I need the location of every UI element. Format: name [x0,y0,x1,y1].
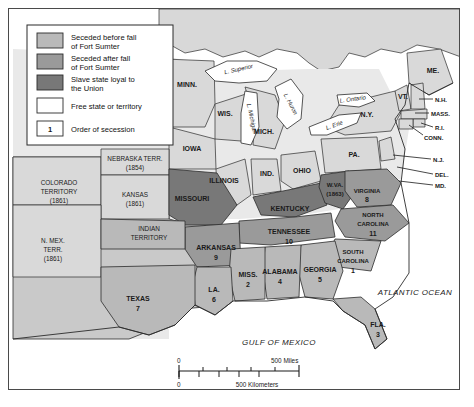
legend-label-0-l1: Seceded before fall [71,33,137,42]
label-confederate-10-l1: NORTH [362,212,383,218]
label-small-state-1: MASS. [431,111,450,117]
label-confederate-0-l2: CAROLINA [337,258,369,264]
label-state-7: PA. [348,151,359,158]
label-confederate-8: ARKANSAS [196,244,236,251]
order-number-5: 6 [212,296,216,303]
legend-swatch-2 [37,75,63,90]
label-state-2: IOWA [183,145,202,152]
label-state-10: VT. [398,93,408,100]
label-territory-4-l3: (1861) [44,255,62,263]
label-territory-3-l1: INDIAN [138,225,160,232]
scale-km-start: 0 [177,381,181,388]
label-confederate-10-l2: CAROLINA [357,221,389,227]
order-number-7: 8 [365,196,369,203]
legend-order-label: Order of secession [71,125,135,134]
scale-km-end: 500 Kilometers [236,381,279,388]
label-confederate-2: FLA. [370,321,386,328]
legend-swatch-0 [37,33,63,48]
legend-label-2-l2: the Union [71,84,104,93]
label-territory-3-l2: TERRITORY [131,234,168,241]
label-state-4: ILLINOIS [209,177,239,184]
legend-label-1-l1: Seceded after fall [71,54,130,63]
label-small-state-6: MD. [435,183,446,189]
legend-label-0-l2: of Fort Sumter [71,42,120,51]
label-small-state-4: N.J. [433,157,444,163]
label-state-9: ME. [427,67,440,74]
order-number-2: 3 [376,331,380,338]
label-territory-1-l1: NEBRASKA TERR. [107,155,163,162]
label-territory-0-l3: (1861) [50,197,68,205]
label-state-6: OHIO [293,167,311,174]
order-number-3: 4 [278,278,282,285]
label-territory-4-l2: TERR. [43,246,62,253]
legend-swatch-1 [37,54,63,69]
label-confederate-7: VIRGINIA [354,188,381,194]
label-confederate-0-l1: SOUTH [343,249,364,255]
label-confederate-4: GEORGIA [303,266,336,273]
order-number-0: 1 [351,267,355,274]
label-border-state-0: MISSOURI [175,195,210,202]
label-border-state-2: W.VA. [327,182,344,188]
order-number-6: 7 [136,305,140,312]
label-border-state-2-date: (1863) [326,191,343,197]
label-small-state-0: N.H. [435,97,447,103]
order-number-8: 9 [214,254,218,261]
label-territory-0-l1: COLORADO [41,179,78,186]
label-confederate-9: TENNESSEE [268,228,311,235]
scale-miles-end: 500 Miles [271,357,298,364]
order-number-10: 11 [369,230,377,237]
order-number-1: 2 [246,281,250,288]
label-small-state-2: R.I. [435,125,445,131]
legend-label-2-l1: Slave state loyal to [71,75,135,84]
label-territory-4-l1: N. MEX. [41,237,65,244]
label-confederate-1: MISS. [238,271,257,278]
label-small-state-3: CONN. [424,135,444,141]
label-state-0: MINN. [177,81,197,88]
label-gulf-of-mexico: GULF OF MEXICO [242,338,316,347]
secession-map: MINN. WIS. IOWA MICH. ILLINOIS IND. OHIO… [9,9,460,390]
label-confederate-5: LA. [208,286,219,293]
label-atlantic-ocean: ATLANTIC OCEAN [377,288,452,297]
legend: Seceded before fall of Fort Sumter Seced… [27,25,173,145]
order-number-4: 5 [318,276,322,283]
label-state-8: N.Y. [361,111,374,118]
legend-label-3-l1: Free state or territory [71,102,142,111]
label-territory-0-l2: TERRITORY [41,188,78,195]
label-territory-2-l1: KANSAS [122,191,148,198]
label-state-5: IND. [260,170,274,177]
label-territory-2-l2: (1861) [126,200,144,208]
label-state-1: WIS. [217,110,232,117]
legend-swatch-3 [37,98,63,113]
label-border-state-1: KENTUCKY [271,205,310,212]
order-number-9: 10 [285,238,293,245]
label-small-state-5: DEL. [435,172,449,178]
label-confederate-6: TEXAS [126,295,150,302]
map-frame: MINN. WIS. IOWA MICH. ILLINOIS IND. OHIO… [8,8,460,390]
label-territory-1-l2: (1854) [126,164,144,172]
legend-label-1-l2: of Fort Sumter [71,63,120,72]
scale-miles-start: 0 [177,357,181,364]
label-confederate-3: ALABAMA [262,268,297,275]
legend-order-symbol: 1 [48,125,52,134]
